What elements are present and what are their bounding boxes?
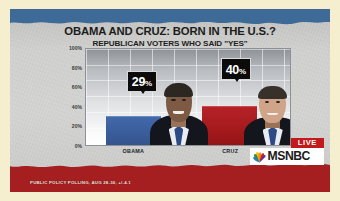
hair — [258, 86, 287, 99]
msnbc-logo: MSNBC — [250, 148, 324, 165]
portrait-cruz — [241, 78, 291, 145]
page-title: OBAMA AND CRUZ: BORN IN THE U.S.? — [10, 25, 330, 38]
title-block: OBAMA AND CRUZ: BORN IN THE U.S.? REPUBL… — [10, 25, 330, 49]
mouth — [173, 111, 184, 114]
value-number: 40 — [226, 63, 239, 77]
y-axis: 100% 80% 60% 40% 20% 0% — [66, 48, 84, 146]
x-tick-label-cruz: CRUZ — [222, 148, 238, 154]
y-tick-label: 0% — [75, 143, 82, 149]
value-number: 29 — [132, 75, 145, 89]
peacock-icon — [253, 151, 266, 163]
x-tick-label-obama: OBAMA — [123, 148, 145, 154]
live-badge: LIVE — [291, 138, 324, 148]
y-tick-label: 80% — [72, 65, 82, 71]
y-tick-label: 40% — [72, 104, 82, 110]
plot-area: 29% 40% — [85, 48, 291, 146]
source-note: PUBLIC POLICY POLLING, AUG 28-30, +/-4.1 — [30, 180, 131, 185]
value-callout-obama: 29% — [127, 71, 157, 93]
msnbc-wordmark: MSNBC — [268, 150, 310, 162]
network-bug: LIVE MSNBC — [250, 148, 324, 165]
photo-cruz — [241, 78, 291, 145]
eye — [171, 99, 175, 101]
y-tick-label: 20% — [72, 123, 82, 129]
bar-chart: 100% 80% 60% 40% 20% 0% — [66, 48, 291, 160]
broadcast-screenshot: OBAMA AND CRUZ: BORN IN THE U.S.? REPUBL… — [0, 0, 340, 201]
percent-sign: % — [145, 79, 152, 88]
value-callout-cruz: 40% — [221, 58, 251, 80]
news-graphic: OBAMA AND CRUZ: BORN IN THE U.S.? REPUBL… — [10, 9, 330, 192]
hair — [164, 83, 193, 97]
percent-sign: % — [239, 67, 246, 76]
y-tick-label: 60% — [72, 84, 82, 90]
y-tick-label: 100% — [69, 45, 82, 51]
